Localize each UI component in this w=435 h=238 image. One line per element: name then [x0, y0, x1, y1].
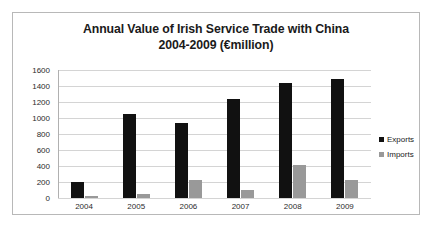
bar-exports-2004	[71, 182, 84, 198]
x-axis-tick-labels: 200420052006200720082009	[58, 202, 371, 216]
bar-exports-2007	[227, 99, 240, 198]
chart-title-line-2: 2004-2009 (€million)	[13, 37, 419, 53]
y-tick-label: 0	[13, 194, 54, 203]
y-axis-tick-labels: 02004006008001000120014001600	[13, 70, 54, 198]
bar-exports-2008	[279, 83, 292, 198]
chart-legend: Exports Imports	[379, 135, 427, 165]
bar-group	[319, 70, 371, 198]
y-tick-label: 1000	[13, 114, 54, 123]
bar-exports-2006	[175, 123, 188, 198]
legend-swatch-imports-icon	[379, 152, 384, 157]
bar-imports-2009	[345, 180, 358, 198]
y-tick-label: 800	[13, 130, 54, 139]
legend-swatch-exports-icon	[379, 137, 384, 142]
y-tick-label: 200	[13, 178, 54, 187]
x-tick-label: 2007	[215, 202, 267, 211]
bar-imports-2008	[293, 165, 306, 198]
bar-group	[110, 70, 162, 198]
bar-group	[215, 70, 267, 198]
bar-group	[267, 70, 319, 198]
x-tick-label: 2004	[58, 202, 110, 211]
legend-label-exports: Exports	[387, 135, 414, 144]
chart-title-line-1: Annual Value of Irish Service Trade with…	[13, 21, 419, 37]
legend-item-exports: Exports	[379, 135, 427, 144]
y-tick-label: 1600	[13, 66, 54, 75]
gridline	[58, 198, 371, 199]
legend-item-imports: Imports	[379, 150, 427, 159]
x-tick-label: 2005	[110, 202, 162, 211]
bar-imports-2004	[85, 196, 98, 198]
chart-title: Annual Value of Irish Service Trade with…	[13, 21, 419, 53]
bar-exports-2005	[123, 114, 136, 198]
y-tick-label: 1200	[13, 98, 54, 107]
chart-card: Annual Value of Irish Service Trade with…	[12, 12, 420, 215]
y-tick-label: 400	[13, 162, 54, 171]
x-tick-label: 2008	[267, 202, 319, 211]
plot-area	[58, 70, 371, 198]
y-tick-label: 600	[13, 146, 54, 155]
legend-label-imports: Imports	[387, 150, 414, 159]
bar-group	[162, 70, 214, 198]
x-tick-label: 2006	[162, 202, 214, 211]
bar-group	[58, 70, 110, 198]
bar-imports-2006	[189, 180, 202, 198]
x-tick-label: 2009	[319, 202, 371, 211]
bar-imports-2005	[137, 194, 150, 198]
y-tick-label: 1400	[13, 82, 54, 91]
bar-imports-2007	[241, 190, 254, 198]
bar-exports-2009	[331, 79, 344, 198]
bars-layer	[58, 70, 371, 198]
